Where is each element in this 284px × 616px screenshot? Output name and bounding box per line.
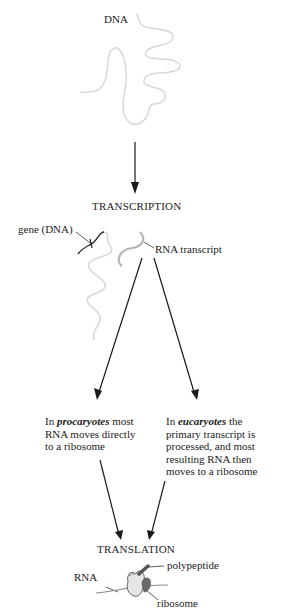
procaryotes-term: procaryotes <box>57 415 110 427</box>
rna-transcript-strand-icon <box>119 232 143 266</box>
dna-strand-icon <box>80 14 180 124</box>
rna-label: RNA <box>74 571 97 583</box>
arrow-eucaryotes-icon <box>191 389 199 400</box>
arrow-translation-right-icon <box>147 530 155 540</box>
eucaryotes-line-2: primary transcript is <box>166 428 257 441</box>
arrow-down-icon <box>131 182 139 194</box>
diagram-canvas <box>0 0 284 616</box>
eucaryotes-line-5: moves to a ribosome <box>166 465 257 478</box>
procaryotes-line-3: to a ribosome <box>45 440 135 453</box>
procaryotes-prefix: In <box>45 415 57 427</box>
eucaryotes-line-4: resulting RNA then <box>166 453 257 466</box>
ribosome-label: ribosome <box>157 597 198 609</box>
procaryotes-line-2: RNA moves directly <box>45 428 135 441</box>
gene-dna-label: gene (DNA) <box>18 223 73 235</box>
eucaryotes-suffix: the <box>226 415 242 427</box>
arrow-procaryotes-icon <box>94 388 102 400</box>
eucaryotes-line-3: processed, and most <box>166 440 257 453</box>
rna-transcript-label: RNA transcript <box>155 243 222 255</box>
dna-label: DNA <box>104 13 128 25</box>
arrow-translation-left-icon <box>115 530 123 540</box>
procaryotes-text: In procaryotes most RNA moves directly t… <box>45 415 135 453</box>
eucaryotes-prefix: In <box>166 415 178 427</box>
procaryotes-suffix: most <box>109 415 133 427</box>
polypeptide-chain-icon <box>139 566 148 574</box>
transcription-heading: TRANSCRIPTION <box>92 200 181 212</box>
eucaryotes-term: eucaryotes <box>178 415 226 427</box>
gene-dna-strand-icon <box>87 232 111 340</box>
translation-heading: TRANSLATION <box>97 543 175 555</box>
polypeptide-label: polypeptide <box>167 559 219 571</box>
eucaryotes-text: In eucaryotes the primary transcript is … <box>166 415 257 478</box>
